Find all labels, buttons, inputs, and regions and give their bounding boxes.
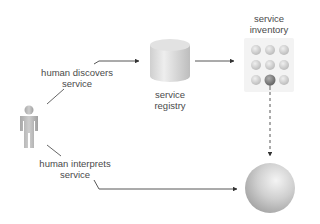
sphere-icon: [245, 163, 295, 213]
database-cylinder-icon: [150, 39, 190, 82]
node-label-inventory: service inventory: [243, 13, 295, 35]
edge-label-discovers: human discovers service: [36, 67, 118, 89]
service-grid-icon: [244, 38, 294, 92]
person-icon: [20, 106, 38, 149]
node-label-registry: service registry: [145, 89, 195, 111]
edge-label-interprets: human interprets service: [34, 158, 116, 180]
